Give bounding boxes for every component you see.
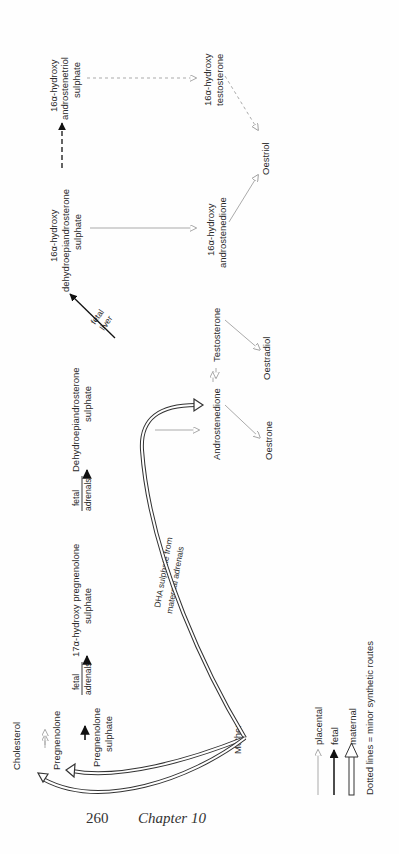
svg-text:16α-hydroxy: 16α-hydroxy bbox=[202, 53, 213, 106]
svg-text:Oestrone: Oestrone bbox=[263, 421, 274, 460]
arrow-to-oestrone bbox=[225, 405, 260, 438]
maternal-arrow-dha bbox=[142, 399, 245, 738]
svg-text:dehydroepiandrosterone: dehydroepiandrosterone bbox=[60, 189, 71, 292]
node-oestradiol: Oestradiol bbox=[261, 337, 272, 380]
node-16-hydroxy-dhea-sulphate: 16α-hydroxy dehydroepiandrosterone sulph… bbox=[48, 189, 83, 292]
diagram-page: Cholesterol Pregnenolone Pregnenolone su… bbox=[0, 0, 399, 854]
svg-text:sulphate: sulphate bbox=[103, 716, 114, 752]
svg-text:androstenedione: androstenedione bbox=[217, 197, 228, 268]
node-pregnenolone-sulphate: Pregnenolone sulphate bbox=[91, 708, 114, 767]
svg-text:sulphate: sulphate bbox=[82, 386, 93, 422]
svg-text:sulphate: sulphate bbox=[82, 588, 93, 624]
node-oestrone: Oestrone bbox=[263, 421, 274, 460]
svg-text:Dehydroepiandrosterone: Dehydroepiandrosterone bbox=[70, 367, 81, 472]
node-cholesterol: Cholesterol bbox=[11, 722, 22, 770]
node-testosterone: Testosterone bbox=[211, 308, 222, 362]
edge-label-fetal-liver: fetal liver bbox=[88, 307, 114, 332]
arrow-to-oestriol-1 bbox=[229, 175, 258, 222]
svg-text:16α-hydroxy: 16α-hydroxy bbox=[48, 209, 59, 262]
node-dhea-sulphate: Dehydroepiandrosterone sulphate bbox=[70, 367, 93, 472]
svg-text:Oestriol: Oestriol bbox=[260, 142, 271, 175]
node-oestriol: Oestriol bbox=[260, 142, 271, 175]
svg-text:maternal: maternal bbox=[347, 708, 358, 745]
arrow-dashed-to-oestriol-2 bbox=[225, 76, 258, 130]
node-17-hydroxy-pregnenolone-sulphate: 17α-hydroxy pregnenolone sulphate bbox=[70, 544, 93, 657]
node-androstenedione: Androstenedione bbox=[211, 388, 222, 460]
svg-text:adrenals: adrenals bbox=[83, 662, 93, 695]
svg-text:Testosterone: Testosterone bbox=[211, 308, 222, 362]
svg-text:adrenals: adrenals bbox=[83, 478, 93, 511]
svg-text:16α-hydroxy: 16α-hydroxy bbox=[48, 59, 59, 112]
node-pregnenolone: Pregnenolone bbox=[51, 711, 62, 770]
svg-text:Cholesterol: Cholesterol bbox=[11, 722, 22, 770]
svg-text:17α-hydroxy pregnenolone: 17α-hydroxy pregnenolone bbox=[70, 544, 81, 657]
steroid-pathway-diagram: Cholesterol Pregnenolone Pregnenolone su… bbox=[0, 0, 399, 854]
node-16-hydroxy-androstenetriol-sulphate: 16α-hydroxy androstenetriol sulphate bbox=[48, 57, 82, 120]
svg-text:fetal: fetal bbox=[71, 674, 81, 690]
legend-maternal-arrow-icon bbox=[345, 743, 358, 795]
chapter-title: Chapter 10 bbox=[138, 810, 206, 826]
svg-text:testosterone: testosterone bbox=[214, 54, 225, 106]
svg-text:16α-hydroxy: 16α-hydroxy bbox=[205, 203, 216, 256]
svg-text:Oestradiol: Oestradiol bbox=[261, 337, 272, 380]
legend: placental fetal maternal Dotted lines = … bbox=[313, 641, 375, 795]
node-16-hydroxy-testosterone: 16α-hydroxy testosterone bbox=[202, 53, 225, 106]
svg-text:Pregnenolone: Pregnenolone bbox=[51, 711, 62, 770]
edge-label-fetal-adrenals-2: fetal adrenals bbox=[71, 476, 93, 511]
page-number: 260 bbox=[86, 810, 109, 826]
svg-text:Dotted lines = minor synthetic: Dotted lines = minor synthetic routes bbox=[364, 641, 375, 795]
svg-text:androstenetriol: androstenetriol bbox=[59, 57, 70, 120]
svg-text:Pregnenolone: Pregnenolone bbox=[91, 708, 102, 767]
svg-text:Androstenedione: Androstenedione bbox=[211, 388, 222, 460]
edge-label-fetal-adrenals-1: fetal adrenals bbox=[71, 662, 93, 695]
svg-text:placental: placental bbox=[313, 707, 324, 745]
svg-text:fetal: fetal bbox=[329, 727, 340, 745]
svg-text:fetal: fetal bbox=[71, 490, 81, 506]
svg-text:sulphate: sulphate bbox=[72, 214, 83, 250]
svg-text:sulphate: sulphate bbox=[71, 62, 82, 98]
maternal-arrow-cholesterol bbox=[38, 738, 245, 792]
arrow-to-oestradiol bbox=[225, 320, 260, 350]
node-16-hydroxy-androstenedione: 16α-hydroxy androstenedione bbox=[205, 197, 228, 268]
